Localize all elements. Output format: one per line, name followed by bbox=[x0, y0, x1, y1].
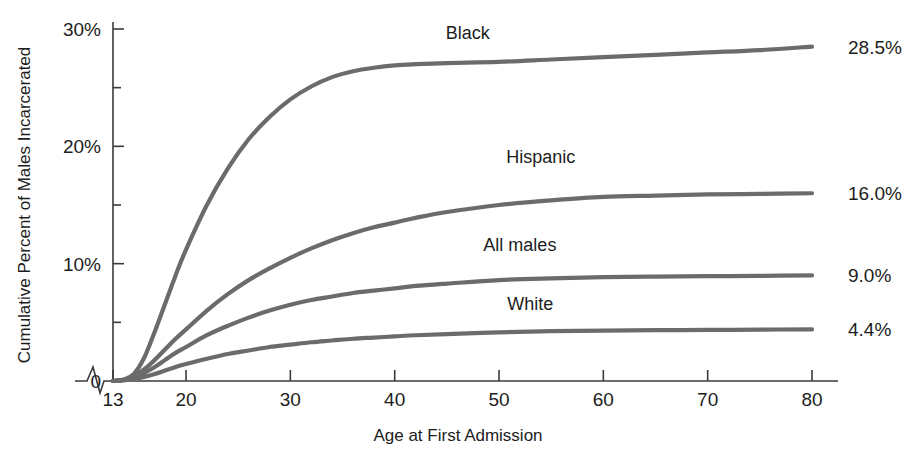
x-tick-label: 50 bbox=[488, 389, 509, 410]
x-tick-label: 70 bbox=[697, 389, 718, 410]
series-name-label-all-males: All males bbox=[483, 235, 556, 255]
chart-series-labels: 28.5%16.0%9.0%4.4%BlackHispanicAll males… bbox=[446, 23, 902, 341]
x-tick-label: 13 bbox=[102, 389, 123, 410]
series-end-label-all-males: 9.0% bbox=[848, 265, 891, 286]
x-tick-label: 30 bbox=[280, 389, 301, 410]
x-tick-label: 80 bbox=[801, 389, 822, 410]
series-name-label-black: Black bbox=[446, 23, 491, 43]
cumulative-incarceration-chart: Cumulative Percent of Males Incarcerated… bbox=[0, 0, 905, 465]
x-tick-label: 40 bbox=[384, 389, 405, 410]
series-name-label-hispanic: Hispanic bbox=[506, 147, 575, 167]
x-axis-title: Age at First Admission bbox=[373, 426, 542, 445]
chart-series bbox=[113, 47, 812, 381]
series-end-label-white: 4.4% bbox=[848, 319, 891, 340]
y-tick-label: 10% bbox=[63, 254, 101, 275]
series-name-label-white: White bbox=[507, 294, 553, 314]
y-tick-label: 30% bbox=[63, 19, 101, 40]
chart-page: Cumulative Percent of Males Incarcerated… bbox=[0, 0, 905, 465]
series-curve-hispanic bbox=[113, 193, 812, 381]
y-tick-label: 20% bbox=[63, 136, 101, 157]
y-tick-label: 0 bbox=[90, 371, 101, 392]
x-tick-label: 60 bbox=[593, 389, 614, 410]
series-end-label-hispanic: 16.0% bbox=[848, 183, 902, 204]
x-tick-label: 20 bbox=[175, 389, 196, 410]
y-axis-title: Cumulative Percent of Males Incarcerated bbox=[15, 47, 34, 364]
series-end-label-black: 28.5% bbox=[848, 37, 902, 58]
